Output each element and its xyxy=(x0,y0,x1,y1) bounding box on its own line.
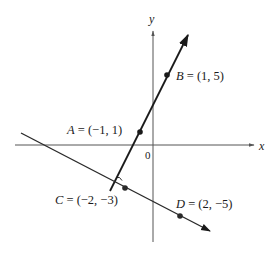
point-a-dot xyxy=(137,129,143,135)
right-angle-marker xyxy=(117,178,123,181)
y-axis-label: y xyxy=(148,12,155,26)
point-b-label: B = (1, 5) xyxy=(176,69,224,83)
line-ab xyxy=(110,35,188,191)
point-c-coords: (−2, −3) xyxy=(77,193,118,207)
point-d-name: D xyxy=(175,197,185,211)
point-b-coords: (1, 5) xyxy=(197,69,224,83)
point-d-dot xyxy=(177,213,183,219)
point-d-label: D = (2, −5) xyxy=(175,197,232,211)
x-axis-label: x xyxy=(258,139,265,153)
point-a-eq: = xyxy=(75,123,88,137)
point-c-label: C = (−2, −3) xyxy=(55,193,118,207)
point-c-dot xyxy=(122,185,128,191)
point-b-eq: = xyxy=(184,69,197,83)
coordinate-diagram: x y 0 A = (−1, 1) B = (1, 5) C = (−2, −3… xyxy=(0,0,279,256)
point-a-name: A xyxy=(66,123,75,137)
point-a-label: A = (−1, 1) xyxy=(66,123,122,137)
point-b-dot xyxy=(164,72,170,78)
origin-label: 0 xyxy=(145,149,151,161)
point-c-eq: = xyxy=(63,193,76,207)
point-a-coords: (−1, 1) xyxy=(88,123,122,137)
point-d-eq: = xyxy=(185,197,198,211)
point-d-coords: (2, −5) xyxy=(198,197,232,211)
